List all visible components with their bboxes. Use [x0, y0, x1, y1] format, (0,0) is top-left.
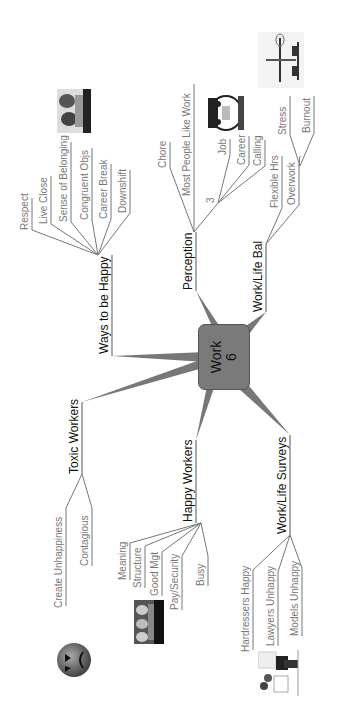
topic-ways-to-be-happy[interactable]: Ways to be Happy	[98, 256, 110, 354]
subtopic-flexible-hrs[interactable]: Flexible Hrs	[270, 155, 280, 208]
subtopic-downshift[interactable]: Downshift	[118, 169, 128, 213]
subtopic-contagious[interactable]: Contagious	[80, 515, 90, 566]
subtopic-sense-of-belonging[interactable]: Sense of Belonging	[59, 135, 69, 222]
branch-connector-toxic	[82, 360, 203, 402]
branch-connector-ways	[112, 352, 205, 362]
subtopic-busy[interactable]: Busy	[196, 564, 206, 586]
subtopic-live-close[interactable]: Live Close	[39, 177, 49, 224]
topic-work-life-surveys[interactable]: Work/Life Surveys	[276, 437, 288, 534]
subtopic-overwork[interactable]: Overwork	[287, 162, 297, 205]
group-photo-image	[134, 600, 164, 644]
subtopic-meaning[interactable]: Meaning	[118, 542, 128, 580]
subtopic-structure[interactable]: Structure	[133, 547, 143, 588]
topic-toxic-workers[interactable]: Toxic Workers	[68, 399, 80, 474]
angry-face-image	[55, 640, 93, 680]
subtopic-career-break[interactable]: Career Break	[99, 160, 109, 219]
subtopic-career[interactable]: Career	[237, 134, 247, 165]
subtopic-create-unhappiness[interactable]: Create Unhappiness	[54, 517, 64, 608]
subtopic-models-unhappy[interactable]: Models Unhappy	[290, 561, 300, 636]
subtopic-calling[interactable]: Calling	[253, 135, 263, 166]
subtopic-chore[interactable]: Chore	[158, 141, 168, 168]
cartoon-face-image	[206, 92, 246, 134]
subtopic-good-mgt[interactable]: Good Mgt	[150, 552, 160, 596]
subtopic-stress[interactable]: Stress	[278, 107, 288, 135]
subtopic-respect[interactable]: Respect	[20, 193, 30, 230]
subtopic-lawyers-unhappy[interactable]: Lawyers Unhappy	[266, 566, 276, 646]
office-clipart-image	[258, 650, 300, 696]
couple-photo-image	[57, 89, 91, 133]
central-topic-title: Work	[209, 341, 224, 373]
central-topic-node[interactable]: Work 6	[198, 324, 250, 390]
topic-perception[interactable]: Perception	[182, 233, 194, 290]
branch-connector-happy	[196, 386, 214, 440]
balance-scale-image	[258, 32, 304, 88]
topic-happy-workers[interactable]: Happy Workers	[182, 440, 194, 522]
subtopic-hardressers-happy[interactable]: Hardressers Happy	[241, 566, 251, 652]
subtopic-job[interactable]: Job	[218, 139, 228, 155]
subtopic-burnout[interactable]: Burnout	[302, 98, 312, 133]
subtopic-3[interactable]: 3	[206, 197, 216, 203]
subtopic-congruent-objs[interactable]: Congruent Objs	[80, 150, 90, 220]
central-topic-count: 6	[224, 353, 239, 361]
subtopic-pay-security[interactable]: Pay/Security	[170, 554, 180, 610]
topic-work-life-bal[interactable]: Work/Life Bal	[252, 241, 264, 312]
subtopic-most-people-like-work[interactable]: Most People Like Work	[182, 93, 192, 196]
